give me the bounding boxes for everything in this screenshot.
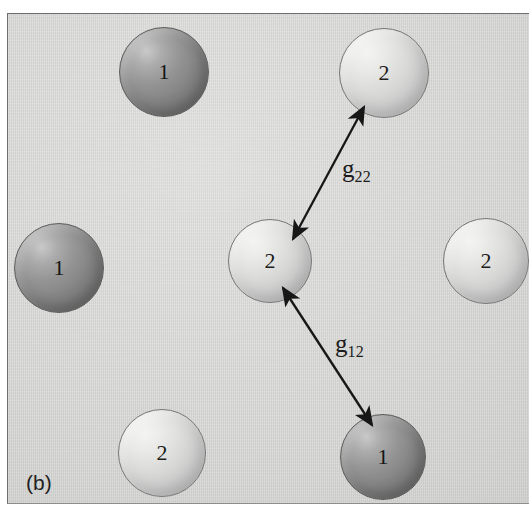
- particle-top-left: 1: [119, 27, 209, 117]
- particle-bottom-left: 2: [118, 409, 206, 497]
- distance-label-subscript: 12: [348, 343, 364, 360]
- particle-top-right: 2: [339, 28, 429, 118]
- particle-right: 2: [443, 218, 529, 304]
- panel-caption: (b): [26, 472, 52, 493]
- particle-label: 1: [54, 257, 65, 279]
- particle-label: 2: [265, 250, 276, 272]
- diagram-panel: 1 2 1 2 2 2 1: [7, 13, 529, 504]
- particle-left: 1: [14, 223, 104, 313]
- distance-label-base: g: [342, 155, 355, 182]
- particle-label: 1: [378, 446, 389, 468]
- distance-label-base: g: [335, 330, 348, 357]
- particle-center: 2: [228, 219, 312, 303]
- distance-label-g22: g22: [342, 156, 371, 181]
- figure-root: 1 2 1 2 2 2 1: [0, 0, 529, 519]
- particle-label: 2: [481, 250, 492, 272]
- particle-bottom-right: 1: [340, 414, 426, 500]
- particle-label: 2: [157, 442, 168, 464]
- distance-label-g12: g12: [335, 331, 364, 356]
- particle-label: 1: [159, 61, 170, 83]
- distance-label-subscript: 22: [355, 168, 371, 185]
- particle-label: 2: [379, 62, 390, 84]
